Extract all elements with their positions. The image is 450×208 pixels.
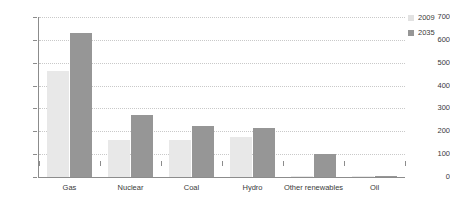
x-axis-tick-mark — [405, 161, 406, 166]
bar-2009-other-renewables[interactable] — [291, 176, 313, 177]
chart-legend: 2009 2035 — [408, 12, 450, 42]
bar-2009-coal[interactable] — [169, 140, 191, 177]
y-axis-tick-mark — [33, 86, 37, 87]
y-axis-title: TWh — [0, 10, 14, 50]
bar-group — [222, 17, 283, 177]
legend-item[interactable]: 2009 — [408, 12, 450, 24]
bar-2035-oil[interactable] — [375, 176, 397, 177]
bar-2009-gas[interactable] — [47, 71, 69, 177]
x-axis-label-nuclear: Nuclear — [118, 184, 144, 192]
x-axis-tick-mark — [161, 161, 162, 166]
y-axis-tick-mark — [33, 63, 37, 64]
y-axis-tick-label: 100 — [420, 150, 450, 158]
bar-2035-coal[interactable] — [192, 126, 214, 177]
y-axis-tick-label: 500 — [420, 59, 450, 67]
legend-item[interactable]: 2035 — [408, 27, 450, 39]
bar-2009-hydro[interactable] — [230, 137, 252, 177]
bar-2035-hydro[interactable] — [253, 128, 275, 177]
y-axis-tick-mark — [33, 177, 37, 178]
y-axis-tick-label: 400 — [420, 82, 450, 90]
y-axis-tick-mark — [33, 108, 37, 109]
y-axis-tick-label: 200 — [420, 128, 450, 136]
plot-area — [39, 17, 405, 177]
legend-label-2009: 2009 — [418, 14, 435, 22]
x-axis-label-coal: Coal — [184, 184, 199, 192]
y-axis-tick-mark — [33, 131, 37, 132]
x-axis-label-oil: Oil — [370, 184, 379, 192]
legend-label-2035: 2035 — [418, 29, 435, 37]
y-axis-tick-mark — [33, 17, 37, 18]
bar-group — [161, 17, 222, 177]
y-axis-tick-mark — [33, 154, 37, 155]
gridline — [39, 177, 405, 178]
bar-group — [100, 17, 161, 177]
legend-swatch-2035-icon — [408, 30, 414, 36]
bar-group — [283, 17, 344, 177]
x-axis-tick-mark — [344, 161, 345, 166]
bar-chart: TWh 0100200300400500600700 GasNuclearCoa… — [0, 0, 450, 208]
y-axis-tick-label: 0 — [420, 173, 450, 181]
x-axis-label-gas: Gas — [63, 184, 77, 192]
bar-2009-nuclear[interactable] — [108, 140, 130, 177]
bar-2035-nuclear[interactable] — [131, 115, 153, 177]
bar-2035-other-renewables[interactable] — [314, 154, 336, 177]
y-axis-tick-mark — [33, 40, 37, 41]
x-axis-tick-mark — [283, 161, 284, 166]
bars-layer — [39, 17, 405, 177]
x-axis-label-other-renewables: Other renewables — [284, 184, 343, 192]
bar-group — [39, 17, 100, 177]
y-axis-tick-label: 300 — [420, 105, 450, 113]
bar-2035-gas[interactable] — [70, 33, 92, 177]
x-axis-tick-mark — [39, 161, 40, 166]
x-axis-tick-mark — [100, 161, 101, 166]
legend-swatch-2009-icon — [408, 15, 414, 21]
bar-2009-oil[interactable] — [352, 176, 374, 177]
bar-group — [344, 17, 405, 177]
x-axis-label-hydro: Hydro — [242, 184, 262, 192]
x-axis-tick-mark — [222, 161, 223, 166]
